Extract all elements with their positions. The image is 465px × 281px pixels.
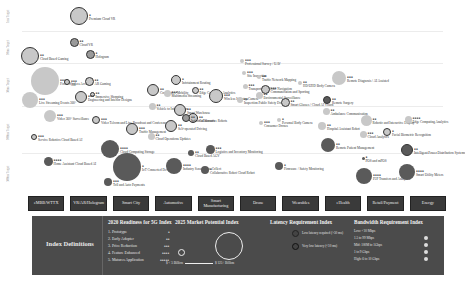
use-case-bubble (261, 85, 270, 94)
latency-title: Latency Requirement Index (270, 219, 332, 225)
category-energy[interactable]: Energy (410, 196, 446, 211)
use-case-bubble (323, 108, 330, 115)
use-case-bubble (101, 140, 119, 158)
category-smart-city[interactable]: Smart City (113, 196, 149, 211)
use-case-label: ● POS and mPOS (366, 156, 387, 163)
gridline (22, 63, 443, 64)
readiness-dots: ●●● (164, 244, 169, 248)
latency-item: Low latency required (>50 ms) (302, 231, 343, 235)
arrow-right-icon (185, 263, 213, 264)
use-case-bubble (275, 162, 283, 170)
use-case-bubble (85, 77, 94, 86)
use-case-bubble (86, 50, 95, 59)
category-vr-ar[interactable]: VR/AR/Hologram (70, 196, 106, 211)
category-drone[interactable]: Drone (240, 196, 276, 211)
bandwidth-title: Bandwidth Requirement Index (354, 219, 423, 225)
readiness-item: 3. Price Reduction (108, 244, 137, 248)
small-market-circle (178, 249, 185, 256)
use-case-label: ●● Remote Surgery (332, 98, 353, 105)
use-case-label: ●●● Service Robotics Cloud Based AI (38, 135, 82, 142)
use-case-bubble (148, 133, 155, 140)
use-case-label: ● Personal Body Camera (282, 118, 312, 125)
use-case-bubble (243, 84, 248, 89)
use-case-label: ●● Self-operated Driving (178, 124, 207, 131)
use-case-label: ●● Ambulance Communication (331, 109, 368, 116)
category-retail-payment[interactable]: Retail/Payment (367, 196, 403, 211)
use-case-bubble (259, 121, 263, 125)
use-case-bubble (323, 96, 331, 104)
use-case-label: ●● Cloud Based AGV (195, 151, 220, 158)
index-definitions-panel: Index Definitions 2020 Readiness for 5G … (32, 216, 444, 275)
use-case-bubble (318, 122, 326, 130)
use-case-bubble (242, 71, 246, 75)
legend-title: Index Definitions (46, 240, 94, 247)
use-case-label: ●● Cloud VR (80, 40, 93, 47)
bandwidth-dot (424, 257, 428, 261)
bubble-chart: 1ms Target 10ms Target 50ms Target 100ms… (0, 0, 449, 190)
use-case-label: ●●● Remote Diagnosis / AI Assisted (347, 76, 389, 83)
use-case-bubble (405, 116, 412, 123)
very-low-latency-icon (292, 243, 299, 250)
use-case-bubble (64, 79, 70, 85)
readiness-dots: ●● (166, 237, 170, 241)
category-automotive[interactable]: Automotive (155, 196, 191, 211)
use-case-bubble (104, 178, 112, 186)
use-case-bubble (147, 84, 159, 96)
use-case-bubble (356, 168, 372, 184)
divider (102, 216, 103, 275)
bandwidth-item: Low: <10 Mbps (354, 229, 375, 233)
use-case-label: ●●● Video 360° Surveillance (57, 114, 89, 121)
use-case-bubble (70, 7, 88, 25)
use-case-bubble (281, 98, 290, 107)
row-label: 10ms Target (6, 36, 20, 60)
category-ehealth[interactable]: eHealth (325, 196, 361, 211)
row-label: 100ms Target (6, 118, 20, 146)
row-label: 500ms Target (6, 160, 20, 188)
use-case-bubble (22, 92, 38, 108)
use-case-bubble (383, 128, 391, 136)
bandwidth-dot (424, 243, 428, 247)
use-case-bubble (237, 97, 243, 103)
use-case-bubble (192, 87, 199, 94)
market-title: 2025 Market Potential Index (175, 219, 239, 225)
use-case-bubble (188, 150, 194, 156)
use-case-bubble (298, 81, 302, 85)
row-label: 50ms Target (6, 72, 20, 100)
use-case-label: ●● Cloud Based Gaming (40, 54, 68, 61)
use-case-label: ●● Traffic Network Mapping (262, 75, 296, 82)
row-label: 1ms Target (6, 4, 20, 28)
bandwidth-item: High: 6 to 10 Gbps (354, 257, 379, 261)
readiness-item: 1. Prototype (108, 230, 127, 234)
gridline (22, 106, 443, 107)
use-case-bubble (401, 144, 413, 156)
use-case-bubble (126, 123, 138, 135)
use-case-bubble (70, 38, 79, 47)
use-case-label: ● Collaborative Robot Cloud Robot (210, 168, 255, 175)
latency-item: Very low latency (<10 ms) (302, 244, 337, 248)
use-case-label: ●●●● Edge Computing Analytics (413, 117, 449, 124)
use-case-bubble (399, 164, 415, 180)
readiness-dots: ● (168, 230, 170, 234)
category-bar: eMBB/WTTX VR/AR/Hologram Smart City Auto… (28, 196, 446, 211)
use-case-label: ●●● Logistics and Inventory Monitoring (216, 147, 263, 154)
use-case-label: ●● Industrial Sensors (191, 116, 215, 123)
use-case-bubble (149, 103, 156, 110)
use-case-bubble (362, 157, 365, 160)
use-case-bubble (209, 89, 223, 103)
use-case-label: ● Infotainment Routing (182, 78, 210, 85)
readiness-title: 2020 Readiness for 5G Index (108, 219, 172, 225)
use-case-bubble (92, 116, 100, 124)
use-case-label: ●●●● Smart Utility Meters (416, 170, 443, 177)
market-low: $ < 5 Billion (166, 261, 183, 265)
use-case-label: ●● Hospital Assistant Robot (327, 124, 360, 131)
category-embb[interactable]: eMBB/WTTX (28, 196, 64, 211)
use-case-bubble (277, 118, 281, 122)
bandwidth-item: Mid: 100M to 1Gbps (354, 243, 382, 247)
use-case-bubble (44, 157, 53, 166)
use-case-label: ●● Intelligent Power Distribution System… (414, 148, 465, 155)
category-smart-manufacturing[interactable]: Smart Manufacturing (198, 196, 234, 211)
use-case-bubble (44, 110, 56, 122)
category-wearables[interactable]: Wearables (282, 196, 318, 211)
use-case-bubble (257, 75, 261, 79)
use-case-bubble (165, 120, 177, 132)
